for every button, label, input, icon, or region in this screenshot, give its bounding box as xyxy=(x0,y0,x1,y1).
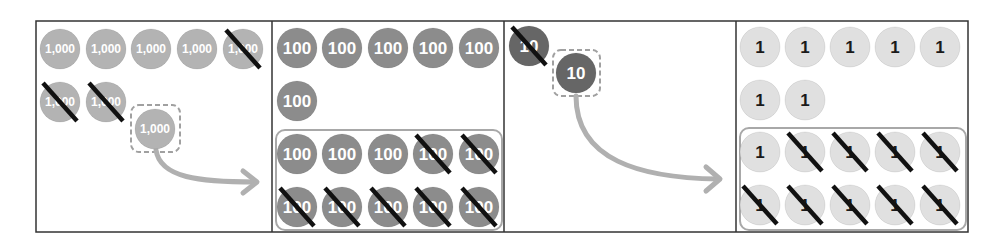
disk-label: 1 xyxy=(890,38,899,57)
disk-label: 100 xyxy=(283,92,311,111)
ones-disk: 1 xyxy=(875,27,915,67)
disk-label: 1,000 xyxy=(140,122,170,136)
hundreds-disk: 100 xyxy=(413,28,453,68)
disk-label: 1 xyxy=(755,143,764,162)
disk-label: 100 xyxy=(465,39,493,58)
thousands-disk-crossed: 1,000 xyxy=(223,29,263,69)
hundreds-regrouped-disk-crossed: 100 xyxy=(413,134,453,174)
ones-regrouped-disk: 1 xyxy=(740,132,780,172)
ones-regrouped-disk-crossed: 1 xyxy=(920,185,960,225)
hundreds-disk: 100 xyxy=(459,28,499,68)
disk-label: 1,000 xyxy=(45,42,75,56)
hundreds-regrouped-disk: 100 xyxy=(277,134,317,174)
hundreds-regrouped-disk-crossed: 100 xyxy=(459,187,499,227)
disk-label: 100 xyxy=(374,145,402,164)
ones-regrouped-disk-crossed: 1 xyxy=(875,132,915,172)
disk-label: 100 xyxy=(328,145,356,164)
hundreds-regrouped-disk-crossed: 100 xyxy=(277,187,317,227)
thousands-disk: 1,000 xyxy=(86,29,126,69)
hundreds-regrouped-disk: 100 xyxy=(368,134,408,174)
thousands-disk: 1,000 xyxy=(177,29,217,69)
disk-label: 1 xyxy=(800,38,809,57)
hundreds-regrouped-disk-crossed: 100 xyxy=(368,187,408,227)
thousands-disk-crossed: 1,000 xyxy=(40,82,80,122)
disk-label: 100 xyxy=(283,145,311,164)
ones-regrouped-disk-crossed: 1 xyxy=(920,132,960,172)
disk-label: 100 xyxy=(328,39,356,58)
hundreds-disk: 100 xyxy=(277,28,317,68)
ones-disk: 1 xyxy=(785,27,825,67)
ones-disk: 1 xyxy=(785,80,825,120)
hundreds-regrouped-disk-crossed: 100 xyxy=(459,134,499,174)
hundreds-disk: 100 xyxy=(277,81,317,121)
disk-label: 1 xyxy=(800,91,809,110)
ones-disk: 1 xyxy=(830,27,870,67)
thousands-disk-being-regrouped: 1,000 xyxy=(135,109,175,149)
hundreds-disk: 100 xyxy=(322,28,362,68)
ones-regrouped-disk-crossed: 1 xyxy=(875,185,915,225)
disk-label: 100 xyxy=(374,39,402,58)
disk-label: 1,000 xyxy=(91,42,121,56)
disk-label: 1 xyxy=(845,38,854,57)
tens-disk-being-regrouped: 10 xyxy=(556,53,596,93)
ones-disk: 1 xyxy=(740,80,780,120)
hundreds-regrouped-disk-crossed: 100 xyxy=(413,187,453,227)
disk-label: 100 xyxy=(283,39,311,58)
tens-disk-crossed: 10 xyxy=(509,26,549,66)
place-value-diagram: 1,0001,0001,0001,0001,0001,0001,0001,000… xyxy=(0,0,1000,252)
disk-label: 1,000 xyxy=(136,42,166,56)
ones-disk: 1 xyxy=(920,27,960,67)
hundreds-regrouped-disk: 100 xyxy=(322,134,362,174)
ones-regrouped-disk-crossed: 1 xyxy=(830,132,870,172)
thousands-disk-crossed: 1,000 xyxy=(86,82,126,122)
disk-label: 100 xyxy=(419,39,447,58)
hundreds-disk: 100 xyxy=(368,28,408,68)
disk-label: 1 xyxy=(755,38,764,57)
thousands-disk: 1,000 xyxy=(131,29,171,69)
disk-label: 1,000 xyxy=(182,42,212,56)
ones-regrouped-disk-crossed: 1 xyxy=(785,132,825,172)
ones-disk: 1 xyxy=(740,27,780,67)
disk-label: 10 xyxy=(567,64,586,83)
disk-label: 1 xyxy=(755,91,764,110)
hundreds-regrouped-disk-crossed: 100 xyxy=(322,187,362,227)
thousands-disk: 1,000 xyxy=(40,29,80,69)
ones-regrouped-disk-crossed: 1 xyxy=(785,185,825,225)
disk-label: 1 xyxy=(935,38,944,57)
ones-regrouped-disk-crossed: 1 xyxy=(740,185,780,225)
ones-regrouped-disk-crossed: 1 xyxy=(830,185,870,225)
